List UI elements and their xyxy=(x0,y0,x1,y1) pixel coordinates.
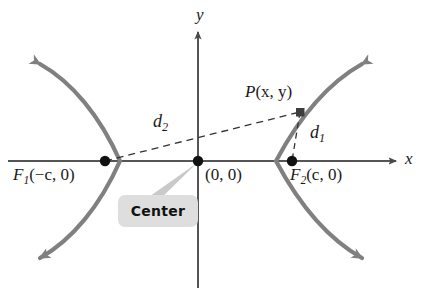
focus-right-letter: F xyxy=(290,165,300,184)
focus-left-coords: (−c, 0) xyxy=(29,165,74,184)
center-callout-text: Center xyxy=(118,195,198,227)
x-axis-label: x xyxy=(405,150,413,167)
diagram-canvas xyxy=(0,0,425,297)
center-callout-badge: Center xyxy=(118,195,198,227)
distance-d2-label: d2 xyxy=(153,112,168,133)
d1-subscript: 1 xyxy=(319,131,325,145)
d2-letter: d xyxy=(153,111,162,131)
d2-subscript: 2 xyxy=(162,120,168,134)
distance-segment-d2 xyxy=(105,112,300,161)
y-axis-label: y xyxy=(196,6,204,23)
focus-left-label: F1(−c, 0) xyxy=(13,166,75,186)
distance-d1-label: d1 xyxy=(310,123,325,144)
point-p-marker xyxy=(296,108,305,117)
origin-coordinate-label: (0, 0) xyxy=(205,166,242,183)
distance-segment-d1 xyxy=(292,112,300,161)
point-p-label: P(x, y) xyxy=(245,83,292,100)
point-p-coords-text: (x, y) xyxy=(255,82,292,101)
d1-letter: d xyxy=(310,122,319,142)
focus-left-marker xyxy=(100,156,110,166)
focus-right-label: F2(c, 0) xyxy=(290,166,342,186)
point-p-letter: P xyxy=(245,82,255,101)
focus-left-letter: F xyxy=(13,165,23,184)
origin-point-marker xyxy=(193,156,203,166)
focus-right-coords: (c, 0) xyxy=(306,165,342,184)
hyperbola-figure: y x (0, 0) F1(−c, 0) F2(c, 0) P(x, y) d1… xyxy=(0,0,425,297)
